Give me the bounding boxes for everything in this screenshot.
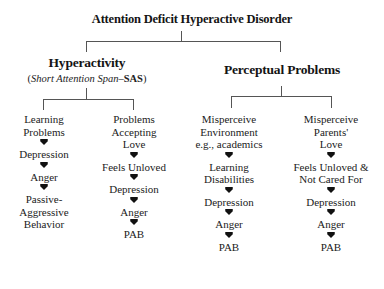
branch-heading-hyperactivity: Hyperactivity xyxy=(12,55,162,71)
subtitle-bold: SAS xyxy=(124,73,143,84)
connector-right-drop-b xyxy=(331,96,332,108)
down-arrow-icon xyxy=(40,164,48,168)
node-anger: Anger xyxy=(215,218,243,231)
down-arrow-icon xyxy=(327,154,335,158)
node-depression: Depression xyxy=(19,148,69,161)
down-arrow-icon xyxy=(225,234,233,238)
down-arrow-icon xyxy=(225,189,233,193)
node-anger: Anger xyxy=(120,206,148,219)
down-arrow-icon xyxy=(130,199,138,203)
connector-left-drop-b xyxy=(133,99,134,110)
column-problems-accepting-love: Problems Accepting Love Feels Unloved De… xyxy=(84,113,184,241)
down-arrow-icon xyxy=(40,141,48,145)
node-depression: Depression xyxy=(204,196,254,209)
down-arrow-icon xyxy=(40,186,48,190)
down-arrow-icon xyxy=(327,211,335,215)
node-anger: Anger xyxy=(30,171,58,184)
connector-right-stem xyxy=(281,86,282,96)
connector-right-drop-a xyxy=(231,96,232,108)
connector-title-left-drop xyxy=(86,41,87,52)
down-arrow-icon xyxy=(225,154,233,158)
down-arrow-icon xyxy=(327,234,335,238)
connector-title-bar xyxy=(86,41,281,42)
node-passive-aggressive-behavior: Passive- Aggressive Behavior xyxy=(19,193,69,231)
node-misperceive-environment: Misperceive Environment e.g., academics xyxy=(195,113,262,151)
node-learning-disabilities: Learning Disabilities xyxy=(204,161,254,186)
node-pab: PAB xyxy=(321,241,341,254)
node-pab: PAB xyxy=(124,228,144,241)
down-arrow-icon xyxy=(327,189,335,193)
node-feels-unloved-not-cared-for: Feels Unloved & Not Cared For xyxy=(293,161,368,186)
connector-left-drop-a xyxy=(43,99,44,110)
subtitle-close-paren: ) xyxy=(143,73,147,84)
branch-heading-perceptual-problems: Perceptual Problems xyxy=(197,62,367,78)
node-anger: Anger xyxy=(317,218,345,231)
connector-title-right-drop xyxy=(280,41,281,52)
connector-right-bar xyxy=(231,96,332,97)
diagram-title: Attention Deficit Hyperactive Disorder xyxy=(0,12,384,27)
node-depression: Depression xyxy=(109,183,159,196)
down-arrow-icon xyxy=(225,211,233,215)
down-arrow-icon xyxy=(130,154,138,158)
node-pab: PAB xyxy=(219,241,239,254)
column-learning-problems: Learning Problems Depression Anger Passi… xyxy=(0,113,94,231)
node-learning-problems: Learning Problems xyxy=(23,113,65,138)
column-misperceive-parents-love: Misperceive Parents' Love Feels Unloved … xyxy=(281,113,381,253)
down-arrow-icon xyxy=(130,176,138,180)
node-feels-unloved: Feels Unloved xyxy=(102,161,166,174)
node-misperceive-parents-love: Misperceive Parents' Love xyxy=(304,113,358,151)
column-misperceive-environment: Misperceive Environment e.g., academics … xyxy=(179,113,279,253)
node-depression: Depression xyxy=(306,196,356,209)
down-arrow-icon xyxy=(130,221,138,225)
branch-subtitle-sas: (Short Attention Span–SAS) xyxy=(2,73,172,84)
node-problems-accepting-love: Problems Accepting Love xyxy=(111,113,156,151)
connector-left-stem xyxy=(86,88,87,99)
subtitle-italic: Short Attention Span xyxy=(31,73,118,84)
connector-left-bar xyxy=(43,99,134,100)
